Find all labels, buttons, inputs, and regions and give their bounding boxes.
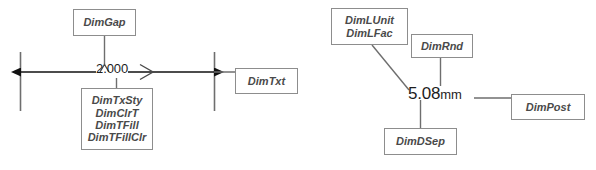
node-dimlunit-line-0: DimLUnit xyxy=(345,14,394,26)
node-dimtxt-line-0: DimTxt xyxy=(248,75,285,87)
node-dimtxsty[interactable]: DimTxSty DimClrT DimTFill DimTFillClr xyxy=(81,88,153,150)
node-dimlunit[interactable]: DimLUnit DimLFac xyxy=(331,8,408,45)
node-dimdsep[interactable]: DimDSep xyxy=(384,128,457,155)
dimension-variables-diagram: 2.000 DimGap DimTxSty DimClrT DimTFill D… xyxy=(0,0,596,170)
node-dimtxsty-line-2: DimTFill xyxy=(95,119,138,131)
node-dimgap[interactable]: DimGap xyxy=(73,9,136,36)
leader-dimlunit xyxy=(372,45,409,90)
dimension-value-metric-unit: mm xyxy=(440,87,461,102)
node-dimrnd[interactable]: DimRnd xyxy=(411,34,473,58)
node-dimgap-line-0: DimGap xyxy=(83,16,125,28)
node-dimtxsty-line-0: DimTxSty xyxy=(92,94,143,106)
dimension-value-metric: 5.08mm xyxy=(408,84,462,104)
node-dimtxt[interactable]: DimTxt xyxy=(235,68,298,94)
node-dimpost-line-0: DimPost xyxy=(526,101,571,113)
dimension-value-imperial-text: 2.000 xyxy=(96,61,128,76)
node-dimpost[interactable]: DimPost xyxy=(511,94,585,120)
node-dimrnd-line-0: DimRnd xyxy=(421,40,463,52)
node-dimdsep-line-0: DimDSep xyxy=(396,135,445,147)
node-dimtxsty-line-3: DimTFillClr xyxy=(88,131,147,143)
node-dimlunit-line-1: DimLFac xyxy=(346,27,392,39)
dimension-value-imperial: 2.000 xyxy=(96,61,128,76)
node-dimtxsty-line-1: DimClrT xyxy=(96,107,139,119)
dimension-value-metric-number: 5.08 xyxy=(408,84,440,103)
